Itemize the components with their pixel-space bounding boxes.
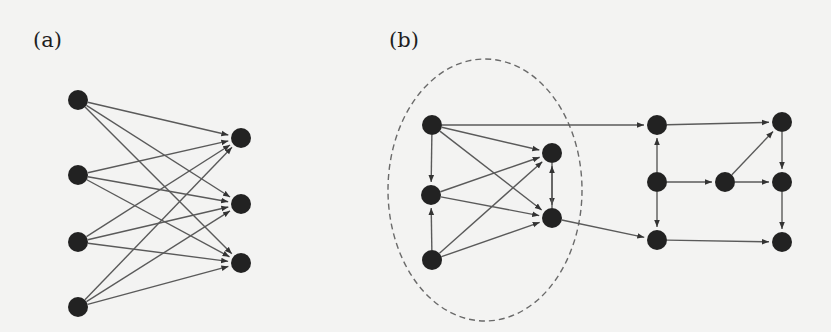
panel-b-edge-A-to-D: [442, 127, 540, 150]
panel-b-node-H: [647, 172, 667, 192]
panel-b-edge-A-to-B: [431, 135, 432, 182]
cluster-dashed-ellipse: [388, 59, 582, 321]
panel-b-node-D: [542, 143, 562, 163]
panel-b-edge-C-to-E: [441, 222, 539, 256]
panel-b-edge-A-to-E: [440, 131, 542, 210]
panel-a-node-a5: [231, 128, 251, 148]
cluster-ellipse-layer: [388, 59, 582, 321]
panel-a-node-a3: [68, 232, 88, 252]
panel-b-node-J: [772, 172, 792, 192]
panel-b-node-F: [647, 115, 667, 135]
panel-b-node-G: [772, 112, 792, 132]
panel-a-label: (a): [33, 30, 62, 51]
panel-b-node-L: [772, 232, 792, 252]
panel-b-edge-B-to-D: [440, 157, 539, 191]
panel-a-node-a2: [68, 165, 88, 185]
panel-b-edge-F-to-G: [667, 122, 769, 124]
panel-a-edge-a2-to-a5: [88, 141, 229, 173]
panel-b-node-I: [715, 172, 735, 192]
panel-a-node-a7: [231, 253, 251, 273]
panel-a-edge-a4-to-a7: [88, 266, 229, 304]
panel-b-edge-I-to-G: [732, 131, 773, 174]
figure-canvas: (a) (b): [0, 0, 831, 332]
panel-b-node-K: [647, 230, 667, 250]
panel-b-node-C: [422, 250, 442, 270]
panel-b-edge-B-to-E: [441, 197, 539, 216]
panel-a-node-a1: [68, 90, 88, 110]
panel-b-edge-C-to-B: [431, 208, 432, 250]
panel-b-node-E: [542, 208, 562, 228]
panel-b-node-A: [422, 115, 442, 135]
panel-b-edge-K-to-L: [667, 240, 769, 242]
panel-a-node-a6: [231, 194, 251, 214]
panel-b-label: (b): [389, 30, 419, 51]
panel-a-edge-a3-to-a7: [88, 243, 228, 261]
panel-a-node-a4: [68, 297, 88, 317]
panel-b-edge-E-to-K: [562, 220, 644, 237]
panel-b-node-B: [421, 185, 441, 205]
